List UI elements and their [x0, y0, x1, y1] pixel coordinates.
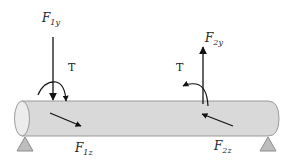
torque-right-label: T	[176, 61, 184, 74]
f2z-label: F2z	[213, 139, 232, 155]
torque-left-arrow	[38, 82, 66, 101]
left-support	[17, 137, 33, 151]
right-support	[260, 137, 276, 151]
shaft	[15, 101, 280, 136]
shaft-diagram: F1y T F1z F2y T F2z	[0, 0, 293, 160]
torque-left-label: T	[68, 61, 76, 74]
f1y-label: F1y	[41, 11, 60, 27]
shaft-left-end-cap	[15, 101, 30, 136]
f1z-label: F1z	[74, 141, 93, 157]
f2y-label: F2y	[204, 31, 223, 47]
